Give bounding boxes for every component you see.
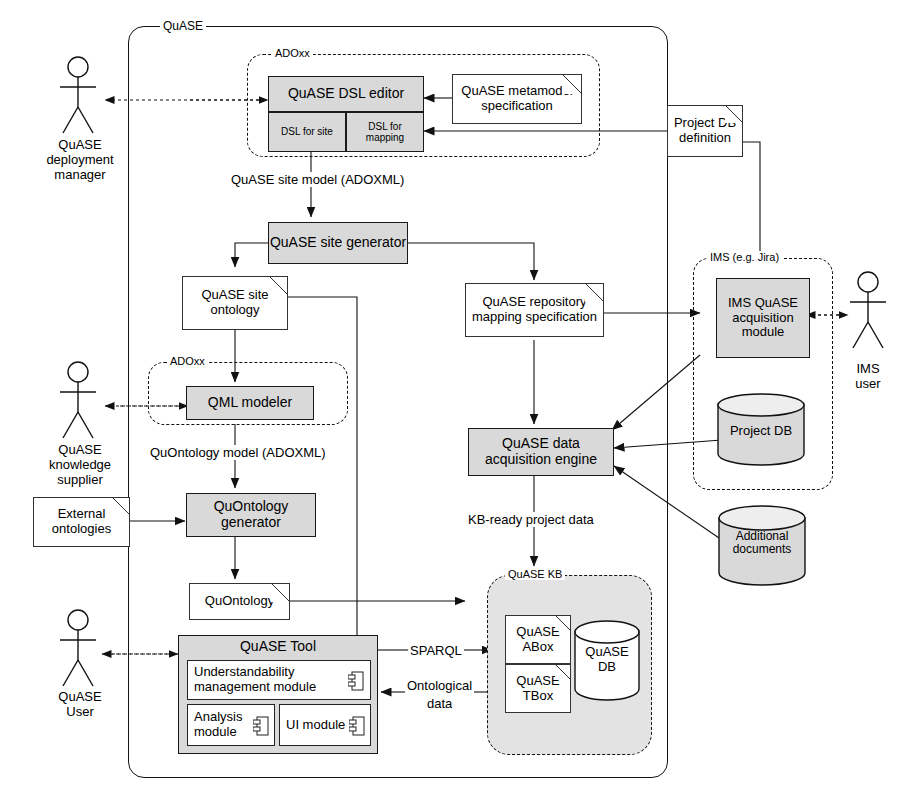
actor-ims-user-label: IMS user bbox=[818, 362, 907, 392]
module-label: Analysis module bbox=[194, 710, 252, 740]
component-icon bbox=[253, 715, 269, 737]
component-qml-modeler[interactable]: QML modeler bbox=[186, 386, 314, 420]
edge-label-quontology-model: QuOntology model (ADOXML) bbox=[148, 445, 328, 460]
actor-deployment-manager-figure bbox=[50, 55, 110, 145]
edge-label-ontological-data: data bbox=[425, 696, 454, 711]
database-project-db-label: Project DB bbox=[715, 424, 807, 439]
note-fold-icon bbox=[725, 105, 744, 124]
adoxx-mid-label: ADOxx bbox=[167, 355, 208, 367]
note-fold-icon bbox=[585, 283, 605, 303]
note-fold-icon bbox=[562, 74, 583, 95]
note-fold-icon bbox=[555, 664, 572, 681]
note-fold-icon bbox=[112, 497, 131, 516]
module-understandability-management[interactable]: Understandability management module bbox=[187, 660, 371, 700]
component-quase-dsl-editor[interactable]: QuASE DSL editor bbox=[268, 76, 424, 112]
db-line: QuASE bbox=[572, 645, 642, 660]
db-line: Additional bbox=[716, 530, 808, 543]
component-quase-data-acquisition-engine[interactable]: QuASE data acquisition engine bbox=[468, 428, 614, 476]
module-analysis[interactable]: Analysis module bbox=[187, 704, 275, 746]
actor-line: manager bbox=[20, 168, 140, 183]
note-fold-icon bbox=[271, 583, 291, 603]
note-fold-icon bbox=[269, 276, 289, 296]
actor-quase-user-figure bbox=[50, 608, 110, 698]
actor-ims-user-figure bbox=[840, 270, 900, 360]
edge-label-site-model: QuASE site model (ADOXML) bbox=[229, 172, 406, 187]
database-quase-db-label: QuASE DB bbox=[572, 645, 642, 674]
actor-line: user bbox=[818, 377, 907, 392]
edge-label-kb-ready-project-data: KB-ready project data bbox=[466, 512, 596, 527]
component-icon bbox=[348, 670, 364, 692]
actor-line: User bbox=[20, 705, 140, 720]
edge-label-sparql: SPARQL bbox=[408, 643, 464, 658]
artifact-line: External bbox=[58, 507, 106, 522]
component-quase-tool[interactable]: QuASE Tool Understandability management … bbox=[178, 635, 378, 754]
quase-kb-label: QuASE KB bbox=[505, 568, 565, 580]
adoxx-top-label: ADOxx bbox=[272, 47, 313, 59]
component-ims-quase-acquisition-module[interactable]: IMS QuASE acquisition module bbox=[716, 278, 810, 358]
artifact-line: QuASE bbox=[516, 625, 559, 640]
artifact-line: QuASE bbox=[516, 674, 559, 689]
db-line: documents bbox=[716, 543, 808, 556]
artifact-line: mapping specification bbox=[472, 310, 597, 325]
diagram-canvas: QuASE ADOxx ADOxx IMS (e.g. Jira) QuASE … bbox=[0, 0, 907, 811]
module-ui[interactable]: UI module bbox=[279, 704, 371, 746]
database-additional-documents-label: Additional documents bbox=[716, 530, 808, 557]
artifact-line: QuASE site bbox=[201, 288, 268, 303]
component-icon bbox=[349, 715, 365, 737]
actor-line: knowledge bbox=[20, 458, 140, 473]
module-label: UI module bbox=[286, 718, 348, 733]
artifact-line: definition bbox=[679, 131, 731, 146]
note-fold-icon bbox=[555, 615, 572, 632]
artifact-line: ontology bbox=[210, 303, 259, 318]
component-dsl-for-site[interactable]: DSL for site bbox=[268, 112, 346, 152]
quase-frame-label: QuASE bbox=[160, 19, 206, 33]
actor-line: QuASE bbox=[20, 138, 140, 153]
actor-deployment-manager-label: QuASE deployment manager bbox=[20, 138, 140, 182]
artifact-quase-repository-mapping-specification: QuASE repository mapping specification bbox=[465, 283, 604, 337]
component-dsl-for-mapping[interactable]: DSL for mapping bbox=[346, 112, 424, 152]
module-label: Understandability management module bbox=[194, 665, 342, 695]
artifact-line: QuASE repository bbox=[482, 295, 586, 310]
actor-line: QuASE bbox=[20, 443, 140, 458]
component-quontology-generator[interactable]: QuOntology generator bbox=[186, 493, 316, 537]
component-quase-site-generator[interactable]: QuASE site generator bbox=[268, 222, 408, 264]
actor-line: supplier bbox=[20, 473, 140, 488]
db-line: DB bbox=[572, 660, 642, 675]
edge-label-ontological: Ontological bbox=[405, 678, 474, 693]
actor-line: IMS bbox=[818, 362, 907, 377]
artifact-line: ABox bbox=[522, 640, 553, 655]
artifact-line: ontologies bbox=[52, 522, 111, 537]
actor-knowledge-supplier-figure bbox=[50, 360, 110, 450]
quase-tool-title: QuASE Tool bbox=[179, 639, 377, 655]
ims-frame-label: IMS (e.g. Jira) bbox=[707, 251, 782, 263]
actor-knowledge-supplier-label: QuASE knowledge supplier bbox=[20, 443, 140, 487]
actor-line: deployment bbox=[20, 153, 140, 168]
artifact-line: TBox bbox=[523, 689, 553, 704]
actor-line: QuASE bbox=[20, 690, 140, 705]
actor-quase-user-label: QuASE User bbox=[20, 690, 140, 720]
